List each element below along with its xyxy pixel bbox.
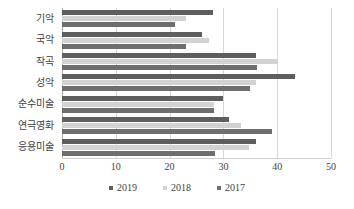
bar-2017	[62, 86, 250, 91]
bar-group	[62, 137, 331, 158]
bar-2017	[62, 151, 215, 156]
legend-label: 2018	[171, 182, 191, 193]
bar-2018	[62, 102, 214, 107]
legend-item-2017[interactable]: 2017	[217, 182, 245, 193]
x-axis-tick-0: 0	[60, 161, 65, 173]
y-axis-label: 응용미술	[0, 141, 54, 152]
chart-legend: 201920182017	[0, 182, 354, 193]
bar-2018	[62, 80, 256, 85]
legend-swatch-2019-icon	[109, 186, 113, 190]
bar-2019	[62, 74, 295, 79]
bar-group	[62, 94, 331, 115]
y-axis-label: 기악	[0, 13, 54, 24]
bar-chart: 기악국악작곡성악순수미술연극영화응용미술 01020304050 2019201…	[0, 0, 354, 209]
x-axis-tick-20: 20	[165, 161, 175, 173]
bar-2018	[62, 145, 249, 150]
bar-2019	[62, 32, 202, 37]
bar-group	[62, 51, 331, 72]
legend-swatch-2018-icon	[163, 186, 167, 190]
bar-group	[62, 72, 331, 93]
bar-2018	[62, 38, 209, 43]
bar-2019	[62, 53, 256, 58]
bar-2018	[62, 16, 186, 21]
legend-swatch-2017-icon	[217, 186, 221, 190]
legend-item-2019[interactable]: 2019	[109, 182, 137, 193]
bar-2019	[62, 96, 223, 101]
bar-group	[62, 29, 331, 50]
x-axis-tick-labels: 01020304050	[62, 161, 331, 177]
x-axis-tick-30: 30	[218, 161, 228, 173]
bar-2017	[62, 65, 257, 70]
bar-2018	[62, 59, 278, 64]
bar-2017	[62, 108, 214, 113]
y-axis-label: 국악	[0, 34, 54, 45]
y-axis-labels: 기악국악작곡성악순수미술연극영화응용미술	[0, 8, 58, 158]
bar-2018	[62, 123, 241, 128]
legend-label: 2019	[117, 182, 137, 193]
y-axis-label: 순수미술	[0, 98, 54, 109]
bar-2017	[62, 44, 186, 49]
bar-2017	[62, 129, 272, 134]
bar-2019	[62, 139, 256, 144]
legend-label: 2017	[225, 182, 245, 193]
y-axis-label: 성악	[0, 77, 54, 88]
bar-group	[62, 8, 331, 29]
y-axis-label: 연극영화	[0, 120, 54, 131]
bar-group	[62, 115, 331, 136]
gridline-50	[331, 8, 332, 158]
legend-item-2018[interactable]: 2018	[163, 182, 191, 193]
bar-2019	[62, 10, 213, 15]
bar-groups	[62, 8, 331, 158]
y-axis-label: 작곡	[0, 56, 54, 67]
x-axis-tick-10: 10	[111, 161, 121, 173]
x-axis-line	[62, 158, 331, 159]
bar-2017	[62, 22, 175, 27]
x-axis-tick-50: 50	[326, 161, 336, 173]
x-axis-tick-40: 40	[272, 161, 282, 173]
bar-2019	[62, 117, 229, 122]
plot-area	[62, 8, 331, 158]
